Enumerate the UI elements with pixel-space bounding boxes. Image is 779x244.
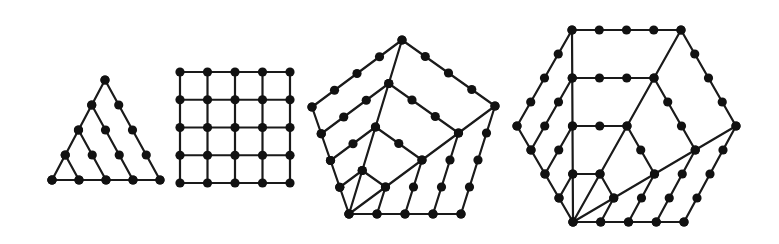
- dot: [444, 68, 453, 77]
- dot: [595, 169, 604, 178]
- dot: [101, 125, 110, 134]
- pentagonal-number-figure: [307, 35, 499, 218]
- triangular-number-figure: [47, 75, 164, 184]
- dot: [258, 67, 267, 76]
- dot: [335, 183, 344, 192]
- dot: [87, 100, 96, 109]
- dot: [74, 125, 83, 134]
- dot: [258, 151, 267, 160]
- edge-line: [433, 133, 459, 214]
- dot: [465, 182, 474, 191]
- dot: [400, 209, 409, 218]
- dot: [175, 95, 184, 104]
- dot: [203, 123, 212, 132]
- polygonal-numbers-diagram: [0, 0, 779, 244]
- dot: [649, 25, 658, 34]
- dot: [731, 121, 740, 130]
- dot: [679, 217, 688, 226]
- dot: [540, 73, 549, 82]
- dot: [203, 151, 212, 160]
- hexagonal-number-figure: [512, 25, 740, 226]
- dot: [175, 178, 184, 187]
- dot: [456, 209, 465, 218]
- dot: [568, 121, 577, 130]
- dot: [397, 35, 406, 44]
- dot: [421, 52, 430, 61]
- dot: [512, 121, 521, 130]
- dot: [437, 182, 446, 191]
- dot: [115, 150, 124, 159]
- dot: [624, 217, 633, 226]
- dot: [358, 166, 367, 175]
- dot: [230, 67, 239, 76]
- dot: [554, 97, 563, 106]
- dot: [445, 155, 454, 164]
- dot: [652, 217, 661, 226]
- dot: [258, 95, 267, 104]
- dot: [317, 129, 326, 138]
- dot: [409, 182, 418, 191]
- dot: [636, 145, 645, 154]
- dot: [285, 95, 294, 104]
- dot: [339, 112, 348, 121]
- dot: [74, 175, 83, 184]
- dot: [362, 96, 371, 105]
- dot: [114, 100, 123, 109]
- dot: [142, 150, 151, 159]
- dot: [692, 193, 701, 202]
- dot: [568, 73, 577, 82]
- dot: [482, 128, 491, 137]
- edge-line: [92, 105, 133, 180]
- dot: [285, 67, 294, 76]
- dot: [704, 73, 713, 82]
- dot: [203, 67, 212, 76]
- dot: [88, 150, 97, 159]
- dot: [676, 25, 685, 34]
- dot: [526, 145, 535, 154]
- dot: [61, 150, 70, 159]
- dot: [473, 155, 482, 164]
- square-number-figure: [175, 67, 294, 187]
- edge-line: [654, 78, 695, 150]
- dot: [230, 123, 239, 132]
- dot: [622, 121, 631, 130]
- dot: [258, 178, 267, 187]
- dot: [637, 193, 646, 202]
- dot: [595, 121, 604, 130]
- dot: [554, 193, 563, 202]
- dot: [285, 151, 294, 160]
- dot: [371, 122, 380, 131]
- dot: [622, 25, 631, 34]
- dot: [677, 121, 686, 130]
- dot: [348, 139, 357, 148]
- dot: [100, 75, 109, 84]
- dot: [554, 49, 563, 58]
- dot: [431, 112, 440, 121]
- dot: [568, 217, 577, 226]
- dot: [394, 139, 403, 148]
- dot: [381, 182, 390, 191]
- dot: [375, 52, 384, 61]
- dot: [330, 86, 339, 95]
- dot: [690, 49, 699, 58]
- dot: [540, 169, 549, 178]
- dot: [155, 175, 164, 184]
- dot: [307, 102, 316, 111]
- dot: [691, 145, 700, 154]
- dot: [258, 123, 267, 132]
- dot: [230, 151, 239, 160]
- dot: [285, 123, 294, 132]
- dot: [596, 217, 605, 226]
- dot: [490, 101, 499, 110]
- dot: [649, 73, 658, 82]
- dot: [128, 175, 137, 184]
- dot: [230, 95, 239, 104]
- edge-line: [389, 84, 459, 134]
- dot: [175, 67, 184, 76]
- dot: [175, 151, 184, 160]
- dot: [526, 97, 535, 106]
- dot: [650, 169, 659, 178]
- dot: [175, 123, 184, 132]
- dot: [568, 169, 577, 178]
- dot: [705, 169, 714, 178]
